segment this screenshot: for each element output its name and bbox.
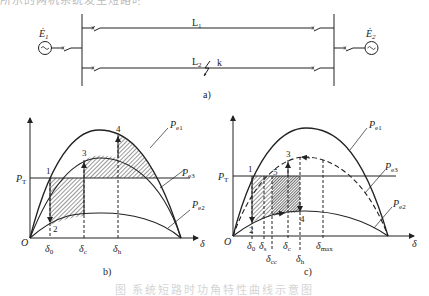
chart-c: Pe1 Pe3 Pe2 PT O δ 1 2 3 4 5 δ0 δs δcc δ… xyxy=(217,116,417,278)
svg-text:Pe2: Pe2 xyxy=(392,198,406,211)
svg-text:δh: δh xyxy=(296,253,305,266)
sub-label-b: b) xyxy=(103,266,111,278)
label-pe1-b: Pe1 xyxy=(169,119,183,132)
figure: Ė1 Ė2 L1 L2 k a) Pe1 Pe3 Pe2 xyxy=(0,0,429,296)
label-l2: L2 xyxy=(192,56,202,69)
svg-text:δh: δh xyxy=(113,243,122,256)
svg-text:δc: δc xyxy=(79,243,87,256)
label-origin-b: O xyxy=(21,237,28,248)
generator-left xyxy=(39,42,83,55)
svg-text:1: 1 xyxy=(248,164,253,174)
label-fault-k: k xyxy=(217,57,222,68)
figure-caption: 图 系统短路时功角特性曲线示意图 xyxy=(0,281,429,296)
svg-text:1: 1 xyxy=(46,166,51,176)
svg-text:Pe3: Pe3 xyxy=(384,161,398,174)
label-pe2-b: Pe2 xyxy=(191,199,205,212)
label-delta-b: δ xyxy=(200,238,205,249)
deceleration-area-1 xyxy=(84,155,118,178)
svg-text:δmax: δmax xyxy=(316,240,333,253)
svg-text:δs: δs xyxy=(259,240,267,253)
svg-text:5: 5 xyxy=(273,167,278,177)
sub-label-c: c) xyxy=(304,266,312,278)
svg-text:2: 2 xyxy=(53,224,58,234)
label-e2: Ė2 xyxy=(365,28,376,41)
svg-text:δ0: δ0 xyxy=(247,240,256,253)
chart-b: Pe1 Pe3 Pe2 PT O δ 1 2 3 4 δ0 δc δh b) xyxy=(15,118,205,278)
svg-text:δcc: δcc xyxy=(266,253,277,266)
svg-text:3: 3 xyxy=(82,148,87,158)
svg-text:4: 4 xyxy=(116,124,121,134)
svg-text:Pe1: Pe1 xyxy=(368,119,382,132)
single-line-diagram: Ė1 Ė2 L1 L2 k a) xyxy=(38,14,378,101)
hatched-area-dark xyxy=(272,176,300,216)
label-e1: Ė1 xyxy=(38,28,49,41)
svg-text:4: 4 xyxy=(300,214,305,224)
svg-text:2: 2 xyxy=(249,225,254,235)
acceleration-area xyxy=(50,178,84,225)
line-l1 xyxy=(82,27,334,32)
svg-text:δ: δ xyxy=(412,238,417,249)
svg-text:O: O xyxy=(224,236,231,247)
hatched-area-light xyxy=(252,176,272,222)
generator-right xyxy=(334,42,378,55)
deceleration-area-2 xyxy=(118,135,156,178)
sub-label-a: a) xyxy=(203,89,211,101)
svg-text:δ0: δ0 xyxy=(45,243,54,256)
svg-text:3: 3 xyxy=(286,149,291,159)
svg-text:PT: PT xyxy=(217,171,229,184)
svg-text:δc: δc xyxy=(283,240,291,253)
label-pt-b: PT xyxy=(15,173,27,186)
